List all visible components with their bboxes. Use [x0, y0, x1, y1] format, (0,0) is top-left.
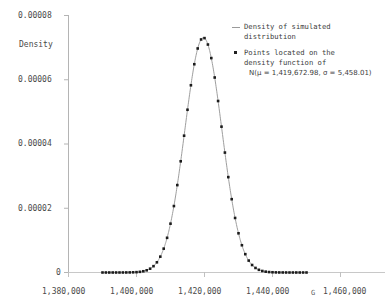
y-tick-label-0.00006: 0.00006: [18, 75, 52, 84]
legend-label-points: Points located on the density function o…: [244, 48, 390, 67]
y-tick-label-0: 0: [56, 268, 61, 277]
y-tick-label-0.00004: 0.00004: [18, 139, 52, 148]
legend-entry-simulated: Density of simulated distribution: [232, 22, 390, 41]
x-tick-label-1400000: 1,400,000: [110, 287, 153, 296]
x-tick-label-1460000: 1,460,000: [323, 287, 366, 296]
legend: Density of simulated distribution Points…: [232, 22, 390, 85]
y-tick-label-0.00008: 0.00008: [18, 11, 52, 20]
x-tick-label-1420000: 1,420,000: [178, 287, 221, 296]
legend-line-marker-icon: [232, 27, 240, 28]
y-axis-ticks: [64, 16, 68, 273]
x-tick-label-1440000: 1,440,000: [246, 287, 289, 296]
legend-entry-points: Points located on the density function o…: [232, 48, 390, 78]
y-axis-title: Density: [19, 40, 53, 49]
x-axis-title: G: [311, 289, 315, 297]
y-tick-label-0.00002: 0.00002: [18, 204, 52, 213]
density-chart: 0.00008 0.00006 0.00004 0.00002 0 Densit…: [0, 0, 391, 306]
legend-dot-marker-icon: [234, 51, 237, 54]
legend-formula-normal: N(μ = 1,419,672.98, σ = 5,458.01): [249, 69, 390, 78]
x-tick-label-1380000: 1,380,000: [42, 287, 85, 296]
legend-label-simulated: Density of simulated distribution: [244, 22, 390, 41]
